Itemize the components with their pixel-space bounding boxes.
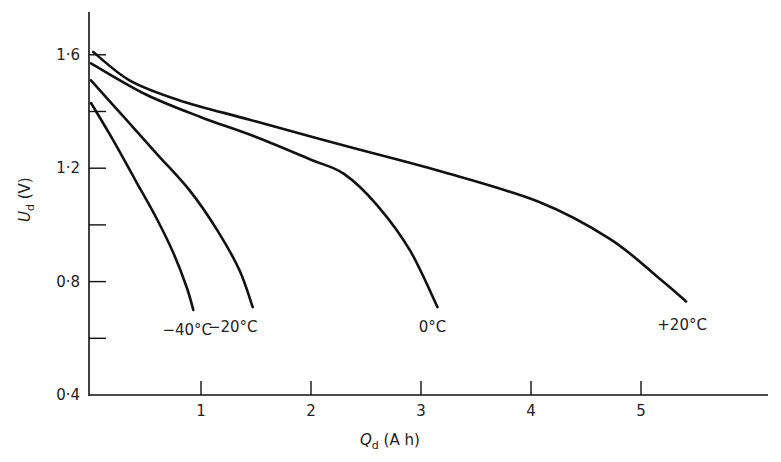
x-tick-label: 4: [526, 402, 536, 420]
series-labels: −40°C−20°C0°C+20°C: [162, 316, 706, 339]
curve-20c: [93, 52, 686, 301]
x-axis-title: Qd (A h): [360, 431, 420, 452]
series-label: −40°C: [162, 321, 212, 339]
series-label: 0°C: [419, 318, 447, 336]
y-tick-label: 0·4: [56, 386, 80, 404]
curve-40c: [91, 103, 193, 310]
y-tick-label: 0·8: [56, 273, 80, 291]
axis-ticks: 0·40·81·21·612345: [56, 46, 646, 420]
discharge-curve-chart: 0·40·81·21·612345 −40°C−20°C0°C+20°C Qd …: [0, 0, 781, 462]
discharge-curves: [91, 52, 686, 310]
series-label: −20°C: [208, 318, 258, 336]
x-tick-label: 5: [636, 402, 646, 420]
y-axis-title: Ud (V): [16, 177, 37, 222]
y-tick-label: 1·2: [56, 159, 80, 177]
x-tick-label: 3: [416, 402, 426, 420]
x-tick-label: 1: [196, 402, 206, 420]
curve-0c: [91, 63, 438, 307]
y-tick-label: 1·6: [56, 46, 80, 64]
x-tick-label: 2: [306, 402, 316, 420]
series-label: +20°C: [657, 316, 707, 334]
